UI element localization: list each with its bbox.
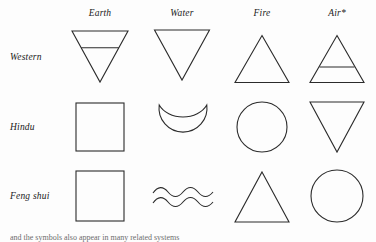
row-header-feng-shui: Feng shui [10,191,50,201]
triangle-icon [234,171,290,223]
cell-western-fire [234,35,290,84]
inverted-triangle-with-bar-icon [71,30,129,84]
double-wave-icon [151,185,215,211]
triangle-with-bar-icon [309,35,365,84]
row-header-hindu: Hindu [10,122,35,132]
row-header-western: Western [10,52,42,62]
footnote: and the symbols also appear in many rela… [10,234,310,242]
inverted-triangle-icon [309,101,365,153]
crescent-icon [156,102,210,154]
cell-western-water [154,29,211,81]
column-header-earth: Earth [89,8,112,18]
circle-icon [310,169,364,223]
circle-icon [236,101,288,153]
column-header-fire: Fire [254,8,271,18]
cell-feng-shui-fire [234,171,290,223]
square-icon [75,170,125,222]
column-header-air: Air* [328,8,346,18]
footnote-text: and the symbols also appear in many rela… [10,234,310,242]
column-header-water: Water [170,8,193,18]
cell-hindu-air [309,101,365,153]
cell-feng-shui-air [310,169,364,223]
cell-western-air [309,35,365,84]
cell-hindu-water [156,102,210,154]
cell-feng-shui-earth [75,170,125,222]
cell-western-earth [71,30,129,84]
cell-hindu-earth [75,102,125,152]
cell-feng-shui-water [151,185,215,211]
inverted-triangle-icon [154,29,211,81]
element-symbol-table: Earth Water Fire Air* Western Hindu Feng… [0,0,376,242]
triangle-icon [234,35,290,84]
cell-hindu-fire [236,101,288,153]
square-icon [75,102,125,152]
